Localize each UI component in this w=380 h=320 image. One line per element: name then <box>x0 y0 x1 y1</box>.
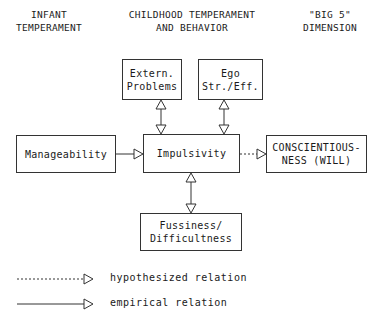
node-ego-strength: Ego Str./Eff. <box>198 59 263 100</box>
arrowhead-icon <box>84 274 93 284</box>
legend-empirical-label: empirical relation <box>110 297 227 308</box>
node-impulsivity: Impulsivity <box>143 134 240 173</box>
legend-hypothesized-label: hypothesized relation <box>110 272 247 283</box>
arrowhead-icon <box>219 125 229 134</box>
node-conscientiousness: CONSCIENTIOUS- NESS (WILL) <box>266 135 367 173</box>
arrowhead-icon <box>257 149 266 159</box>
arrowhead-icon <box>219 100 229 109</box>
arrowhead-icon <box>156 125 166 134</box>
node-manageability: Manageability <box>16 135 116 173</box>
node-extern-problems: Extern. Problems <box>122 59 182 100</box>
arrowhead-icon <box>186 204 196 213</box>
node-fussiness-difficultness: Fussiness/ Difficultness <box>140 213 242 251</box>
arrowhead-icon <box>156 100 166 109</box>
arrowhead-icon <box>186 173 196 182</box>
arrowhead-icon <box>84 299 93 309</box>
arrowhead-icon <box>134 149 143 159</box>
